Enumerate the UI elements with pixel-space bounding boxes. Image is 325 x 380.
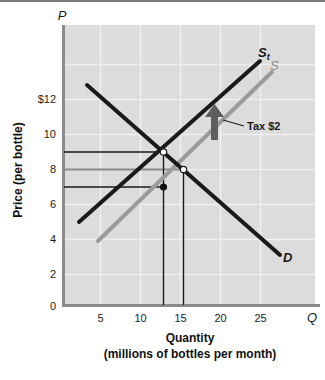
- y-tick-label: 10: [44, 128, 56, 140]
- y-axis-title: Price (per bottle): [11, 122, 25, 217]
- figure-container: 5 10 15 20 25 0 2 4 6 8 10 $12 P Q St S …: [0, 0, 325, 380]
- supply-demand-chart: 5 10 15 20 25 0 2 4 6 8 10 $12 P Q St S …: [0, 0, 325, 380]
- point-equilibrium-with-tax: [160, 149, 166, 155]
- y-axis-symbol: P: [58, 8, 67, 23]
- x-tick-label: 5: [97, 312, 103, 324]
- y-tick-label: 6: [50, 198, 56, 210]
- tax-annotation-label: Tax $2: [247, 120, 280, 132]
- y-tick-label: 4: [50, 233, 56, 245]
- y-tick-label: 0: [50, 300, 56, 312]
- x-axis-title: Quantity: [166, 331, 215, 345]
- x-axis-subtitle: (millions of bottles per month): [104, 347, 277, 361]
- y-tick-label: 2: [50, 268, 56, 280]
- x-tick-label: 10: [134, 312, 146, 324]
- point-price-received-by-seller: [160, 183, 167, 190]
- x-axis-symbol: Q: [307, 310, 317, 325]
- x-tick-label: 20: [214, 312, 226, 324]
- y-tick-labels: 0 2 4 6 8 10 $12: [38, 93, 56, 312]
- supply-curve-label: S: [270, 58, 279, 73]
- x-tick-labels: 5 10 15 20 25: [97, 312, 266, 324]
- point-equilibrium-original: [180, 166, 186, 172]
- y-tick-label: $12: [38, 93, 56, 105]
- y-tick-label: 8: [50, 163, 56, 175]
- demand-curve-label: D: [283, 250, 293, 265]
- x-tick-label: 15: [174, 312, 186, 324]
- x-tick-label: 25: [254, 312, 266, 324]
